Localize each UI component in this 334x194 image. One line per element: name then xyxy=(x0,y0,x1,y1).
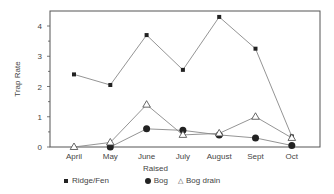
x-tick-label: May xyxy=(103,152,118,161)
circle-marker-icon xyxy=(252,134,259,141)
x-tick-label: April xyxy=(66,152,82,161)
x-tick-label: Sept xyxy=(247,152,264,161)
y-tick-label: 1 xyxy=(38,113,43,122)
triangle-marker-icon xyxy=(252,113,260,120)
triangle-marker-icon xyxy=(143,101,151,108)
legend-label: Bog drain xyxy=(186,176,220,185)
legend-label-line1: Raised xyxy=(133,164,168,173)
square-marker-icon xyxy=(181,68,185,72)
y-tick-label: 0 xyxy=(38,143,43,152)
x-tick-label: Oct xyxy=(286,152,299,161)
x-tick-label: June xyxy=(138,152,156,161)
square-marker-icon xyxy=(72,72,76,76)
triangle-marker-icon: △ xyxy=(178,177,183,184)
square-marker-icon xyxy=(145,33,149,37)
square-marker-icon xyxy=(254,47,258,51)
circle-marker-icon xyxy=(288,142,295,149)
x-tick-label: August xyxy=(207,152,233,161)
circle-marker-icon xyxy=(143,125,150,132)
series-line xyxy=(74,105,292,147)
square-marker-icon xyxy=(217,15,221,19)
legend-label-line2: Bog xyxy=(154,176,168,185)
square-marker-icon xyxy=(108,83,112,87)
y-tick-label: 3 xyxy=(38,52,43,61)
legend-ridge-fen: Ridge/Fen xyxy=(64,176,109,185)
y-axis-title: Trap Rate xyxy=(13,61,22,97)
x-tick-label: July xyxy=(176,152,190,161)
legend-label: Ridge/Fen xyxy=(72,176,109,185)
legend-bog-drain: △Bog drain xyxy=(178,176,220,185)
legend-raised-bog: Raised Bog xyxy=(133,164,168,185)
square-marker-icon xyxy=(64,179,68,183)
triangle-marker-icon xyxy=(288,134,296,141)
y-tick-label: 2 xyxy=(38,83,43,92)
series-line xyxy=(110,129,291,147)
circle-marker-icon xyxy=(145,178,151,184)
y-tick-label: 4 xyxy=(38,22,43,31)
